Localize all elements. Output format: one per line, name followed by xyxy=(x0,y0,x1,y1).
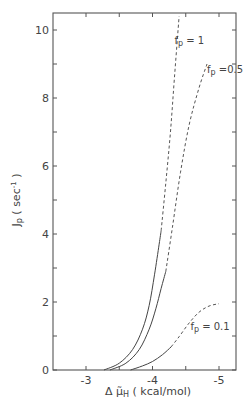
curves xyxy=(104,16,219,370)
y-tick-label: 8 xyxy=(42,92,49,105)
x-axis-title: Δ μ̃H ( kcal/mol) xyxy=(105,385,191,399)
y-tick-label: 6 xyxy=(42,160,49,173)
curve-label-2: fp = 0.1 xyxy=(190,321,229,334)
x-tick-label: -3 xyxy=(81,374,92,387)
y-tick-label: 4 xyxy=(42,228,49,241)
curve-label-0: fp = 1 xyxy=(174,35,204,48)
y-axis-title: Jp ( sec-1 ) xyxy=(10,174,24,228)
curve-dashed-1 xyxy=(166,64,207,271)
curve-solid-0 xyxy=(104,231,161,370)
curve-solid-1 xyxy=(110,271,166,370)
y-tick-label: 0 xyxy=(42,364,49,377)
y-tick-label: 2 xyxy=(42,296,49,309)
curve-label-1: fp =0.5 xyxy=(207,64,243,77)
y-tick-label: 10 xyxy=(35,24,49,37)
curve-solid-2 xyxy=(131,347,172,370)
x-tick-label: -5 xyxy=(214,374,225,387)
chart: -3-4-50246810 fp = 1fp =0.5fp = 0.1 Δ μ̃… xyxy=(0,0,247,411)
curve-labels: fp = 1fp =0.5fp = 0.1 xyxy=(174,35,243,334)
